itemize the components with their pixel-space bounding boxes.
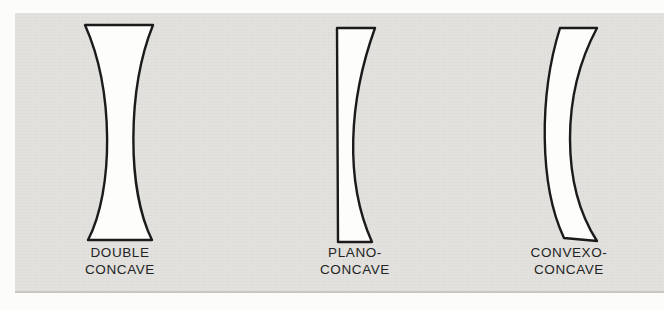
plano-concave-label: PLANO- CONCAVE — [285, 245, 425, 278]
double-concave-label-line1: DOUBLE — [50, 245, 190, 262]
plano-concave-label-line1: PLANO- — [285, 245, 425, 262]
convexo-concave-label: CONVEXO- CONCAVE — [499, 245, 639, 278]
convexo-concave-label-line1: CONVEXO- — [499, 245, 639, 262]
plano-concave-label-line2: CONCAVE — [285, 262, 425, 279]
double-concave-label-line2: CONCAVE — [50, 262, 190, 279]
double-concave-label: DOUBLE CONCAVE — [50, 245, 190, 278]
convexo-concave-label-line2: CONCAVE — [499, 262, 639, 279]
figure-canvas: DOUBLE CONCAVE PLANO- CONCAVE CONVEXO- C… — [0, 0, 664, 310]
